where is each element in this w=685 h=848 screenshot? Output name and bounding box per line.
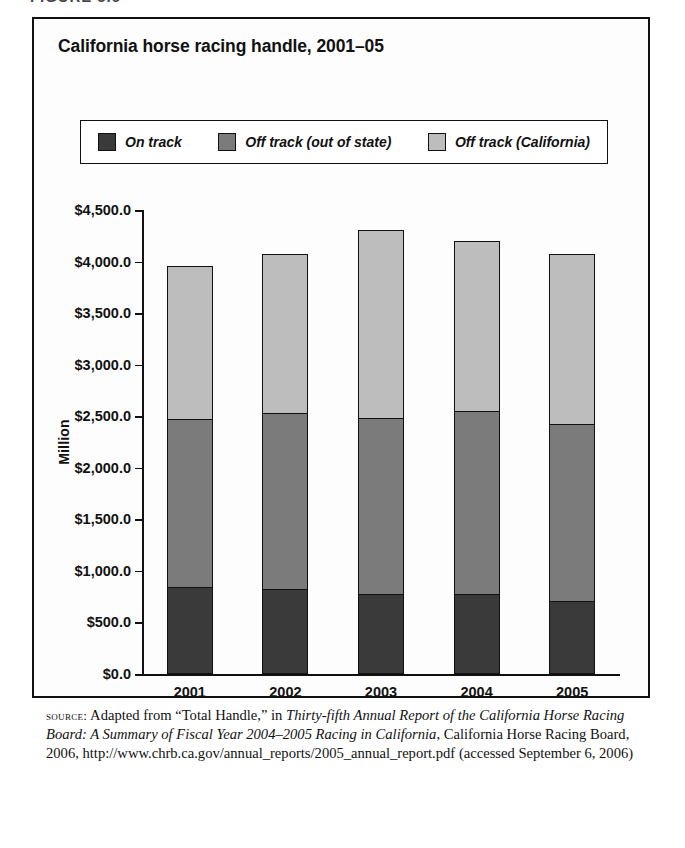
y-axis-tick (135, 365, 142, 367)
bar-segment (262, 589, 308, 674)
x-axis-line (142, 674, 620, 676)
bar-segment (167, 419, 213, 588)
y-axis-tick (135, 519, 142, 521)
bar-2004[interactable] (454, 241, 500, 674)
y-axis-tick-label: $3,500.0 (75, 305, 131, 321)
legend-item-off-track-california[interactable]: Off track (California) (428, 133, 590, 151)
y-axis-tick (135, 622, 142, 624)
legend-item-off-track-out-of-state[interactable]: Off track (out of state) (218, 133, 391, 151)
y-axis-tick-label: $3,000.0 (75, 357, 131, 373)
bar-segment (262, 254, 308, 415)
figure-box: California horse racing handle, 2001–05 … (32, 17, 650, 698)
bar-2001[interactable] (167, 266, 213, 674)
bar-segment (549, 424, 595, 602)
bar-2003[interactable] (358, 230, 404, 674)
x-axis-tick-label: 2001 (174, 684, 206, 700)
source-note: source: Adapted from “Total Handle,” in … (46, 706, 646, 763)
source-accessed: (accessed September 6, 2006) (459, 745, 633, 761)
y-axis-tick-label: $1,000.0 (75, 563, 131, 579)
bar-segment (167, 266, 213, 421)
bar-segment (454, 241, 500, 412)
y-axis-tick-label: $2,500.0 (75, 408, 131, 424)
y-axis-tick-label: $0.0 (103, 666, 131, 682)
y-axis-tick (135, 416, 142, 418)
x-axis-tick-label: 2002 (269, 684, 301, 700)
bar-segment (358, 418, 404, 595)
x-axis-tick-label: 2004 (460, 684, 492, 700)
y-axis-tick (135, 571, 142, 573)
legend-swatch-off-track-california (428, 133, 446, 151)
bar-segment (549, 601, 595, 674)
bar-segment (262, 413, 308, 590)
y-axis-tick-label: $4,000.0 (75, 254, 131, 270)
bar-segment (358, 230, 404, 420)
y-axis-tick-label: $2,000.0 (75, 460, 131, 476)
legend-item-on-track[interactable]: On track (98, 133, 182, 151)
source-prefix: source: (46, 708, 87, 723)
bar-segment (167, 587, 213, 674)
y-axis-tick (135, 262, 142, 264)
bar-2005[interactable] (549, 254, 595, 674)
legend-swatch-off-track-out-of-state (218, 133, 236, 151)
y-axis-tick-label: $4,500.0 (75, 202, 131, 218)
y-axis-tick (135, 468, 142, 470)
y-axis-line (142, 210, 144, 674)
y-axis-tick-label: $1,500.0 (75, 511, 131, 527)
x-axis-tick-label: 2003 (365, 684, 397, 700)
x-axis-tick-label: 2005 (556, 684, 588, 700)
chart-legend: On track Off track (out of state) Off tr… (80, 120, 608, 164)
y-axis-tick-label: $500.0 (87, 614, 131, 630)
source-url[interactable]: http://www.chrb.ca.gov/annual_reports/20… (83, 745, 456, 761)
y-axis-tick (135, 313, 142, 315)
bar-segment (358, 594, 404, 674)
legend-label-off-track-california: Off track (California) (455, 134, 590, 150)
y-axis-title: Million (56, 419, 72, 465)
legend-label-off-track-out-of-state: Off track (out of state) (245, 134, 391, 150)
bar-segment (454, 594, 500, 674)
plot-area: Million $4,500.0$4,000.0$3,500.0$3,000.0… (142, 210, 620, 674)
source-text-a: Adapted from “Total Handle,” in (87, 707, 286, 723)
legend-label-on-track: On track (125, 134, 182, 150)
chart-title: California horse racing handle, 2001–05 (58, 36, 384, 57)
figure-number: FIGURE 5.6 (30, 0, 121, 6)
bar-2002[interactable] (262, 254, 308, 674)
bar-segment (549, 254, 595, 426)
y-axis-tick (135, 674, 142, 676)
legend-swatch-on-track (98, 133, 116, 151)
bar-segment (454, 411, 500, 595)
y-axis-tick (135, 210, 142, 212)
